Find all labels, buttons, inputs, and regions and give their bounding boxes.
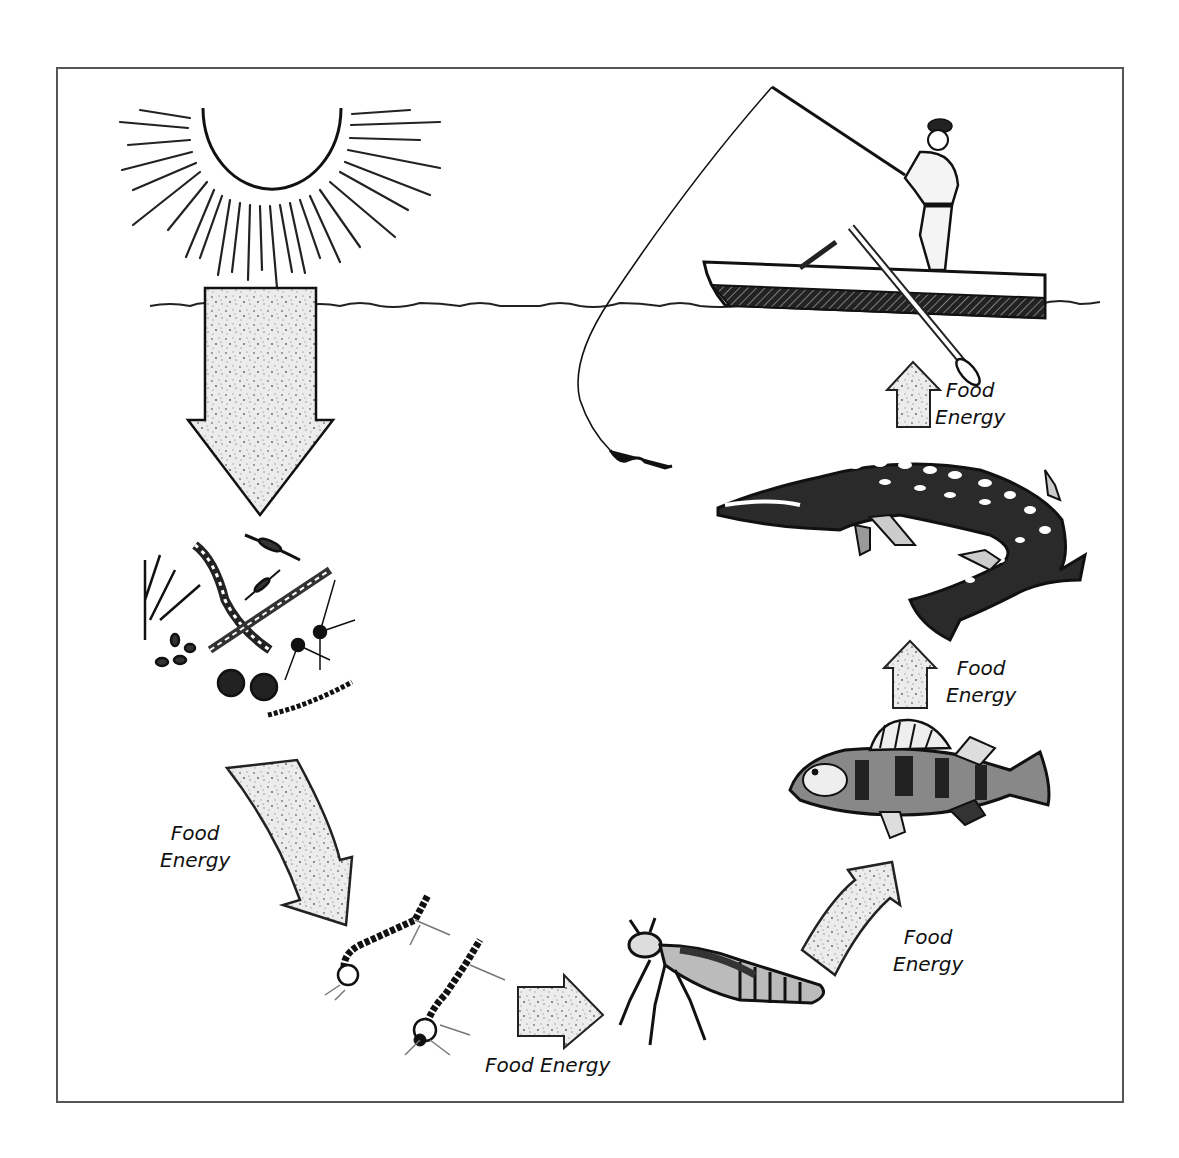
label-line-food: Food (893, 924, 963, 951)
arrow-nymph-to-perch (802, 862, 900, 975)
label-line-food: Food (935, 377, 1005, 404)
pike-icon (718, 459, 1085, 640)
label-line-energy: Energy (893, 951, 963, 978)
sun-icon (120, 108, 440, 288)
arrow-larvae-to-nymph (518, 975, 603, 1048)
label-line-food: Food (160, 820, 230, 847)
sunlight-arrow (188, 288, 333, 515)
arrow-perch-to-pike (884, 641, 936, 708)
label-line-food-energy: Food Energy (485, 1052, 610, 1079)
food-chain-illustration (0, 0, 1179, 1158)
perch-icon (790, 720, 1049, 838)
larvae-icon (325, 895, 505, 1055)
plankton-icon (145, 535, 355, 715)
label-perch-to-pike: Food Energy (946, 655, 1016, 709)
arrow-pike-to-fisherman (887, 362, 940, 427)
label-pike-to-fisherman: Food Energy (935, 377, 1005, 431)
label-line-energy: Energy (935, 404, 1005, 431)
label-line-energy: Energy (160, 847, 230, 874)
dragonfly-nymph-icon (620, 918, 824, 1045)
label-line-energy: Energy (946, 682, 1016, 709)
label-line-food: Food (946, 655, 1016, 682)
label-nymph-to-perch: Food Energy (893, 924, 963, 978)
arrow-plankton-to-larvae (227, 760, 352, 925)
label-plankton-to-larvae: Food Energy (160, 820, 230, 874)
label-larvae-to-nymph: Food Energy (485, 1052, 610, 1079)
